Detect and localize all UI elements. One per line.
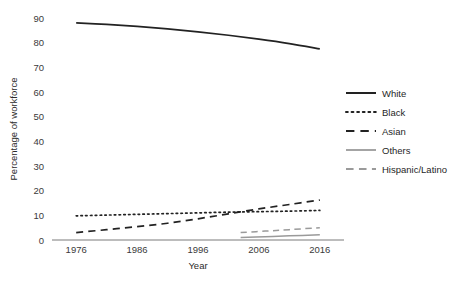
legend-label-black: Black (382, 107, 405, 118)
x-axis-tick-label: 1986 (127, 244, 148, 255)
series-line-black (76, 210, 320, 215)
series-line-asian (76, 200, 320, 233)
y-axis-title: Percentage of workforce (8, 78, 19, 181)
y-axis-tick-label: 80 (33, 37, 44, 48)
y-axis-tick-label: 90 (33, 13, 44, 24)
series-line-hispanic-latino (241, 228, 320, 233)
legend-label-asian: Asian (382, 126, 406, 137)
x-axis-tick-label: 1996 (187, 244, 208, 255)
x-axis-title: Year (188, 260, 207, 271)
chart-canvas: 9080706050403020100Percentage of workfor… (0, 0, 468, 285)
x-axis-tick-label: 2006 (248, 244, 269, 255)
legend-label-hispanic-latino: Hispanic/Latino (382, 164, 447, 175)
y-axis-tick-label: 60 (33, 87, 44, 98)
x-axis-tick-label: 2016 (309, 244, 330, 255)
series-line-others (241, 235, 320, 238)
y-axis-tick-label: 40 (33, 136, 44, 147)
legend-label-others: Others (382, 145, 411, 156)
x-axis-tick-label: 1976 (66, 244, 87, 255)
line-chart: 9080706050403020100Percentage of workfor… (0, 0, 468, 285)
y-axis-tick-label: 0 (39, 235, 44, 246)
y-axis-tick-label: 10 (33, 210, 44, 221)
y-axis-tick-label: 20 (33, 185, 44, 196)
y-axis-tick-label: 50 (33, 111, 44, 122)
series-line-white (76, 23, 320, 49)
y-axis-tick-label: 30 (33, 161, 44, 172)
legend-label-white: White (382, 88, 406, 99)
y-axis-tick-label: 70 (33, 62, 44, 73)
